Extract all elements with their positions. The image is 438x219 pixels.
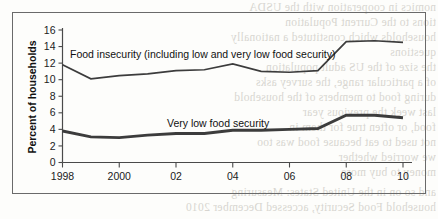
- scanned-page: nomics in cooperation with the USDA tion…: [0, 0, 438, 219]
- figure-frame: [12, 12, 426, 194]
- bleed-text-line: household Food Security, accessed Decemb…: [4, 201, 436, 213]
